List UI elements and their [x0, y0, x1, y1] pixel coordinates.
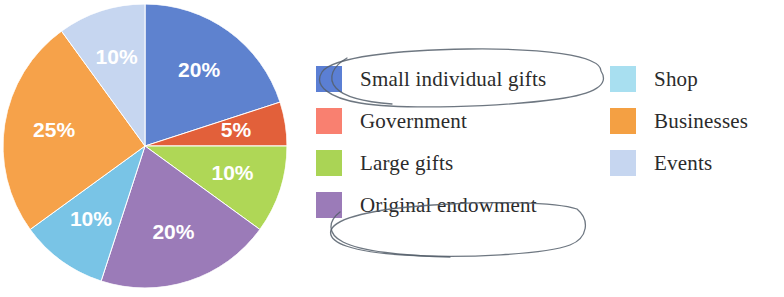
legend-swatch-events — [610, 150, 636, 176]
legend-label-government: Government — [360, 111, 467, 132]
legend-swatch-original-endowment — [316, 192, 342, 218]
legend-label-businesses: Businesses — [654, 111, 748, 132]
pie-slice-value-label: 20% — [152, 220, 194, 243]
pie-slice-value-label: 5% — [221, 118, 252, 141]
legend-swatch-small-individual-gifts — [316, 66, 342, 92]
legend-item-shop[interactable]: Shop — [610, 58, 782, 100]
legend-swatch-businesses — [610, 108, 636, 134]
legend-item-businesses[interactable]: Businesses — [610, 100, 782, 142]
legend-item-small-individual-gifts[interactable]: Small individual gifts — [316, 58, 606, 100]
legend-column-left: Small individual gifts Government Large … — [316, 58, 606, 226]
pie-slices — [3, 4, 287, 288]
pie-slice-value-label: 20% — [178, 58, 220, 81]
legend-column-right: Shop Businesses Events — [610, 58, 782, 184]
legend-label-original-endowment: Original endowment — [360, 195, 537, 216]
legend-swatch-large-gifts — [316, 150, 342, 176]
legend-item-government[interactable]: Government — [316, 100, 606, 142]
legend-swatch-government — [316, 108, 342, 134]
pie-chart-figure: 20%5%10%20%10%25%10% Small individual gi… — [0, 0, 784, 297]
legend-item-original-endowment[interactable]: Original endowment — [316, 184, 606, 226]
chart-legend: Small individual gifts Government Large … — [316, 58, 782, 243]
pie-slice-value-label: 10% — [70, 207, 112, 230]
legend-label-large-gifts: Large gifts — [360, 153, 453, 174]
pie-slice-value-label: 25% — [33, 118, 75, 141]
legend-label-events: Events — [654, 153, 712, 174]
legend-item-events[interactable]: Events — [610, 142, 782, 184]
legend-item-large-gifts[interactable]: Large gifts — [316, 142, 606, 184]
pie-chart: 20%5%10%20%10%25%10% — [0, 0, 292, 297]
pie-slice-value-label: 10% — [211, 161, 253, 184]
legend-label-shop: Shop — [654, 69, 698, 90]
pie-slice-value-label: 10% — [96, 45, 138, 68]
legend-swatch-shop — [610, 66, 636, 92]
legend-label-small-individual-gifts: Small individual gifts — [360, 69, 546, 90]
pie-chart-svg: 20%5%10%20%10%25%10% — [0, 0, 292, 297]
